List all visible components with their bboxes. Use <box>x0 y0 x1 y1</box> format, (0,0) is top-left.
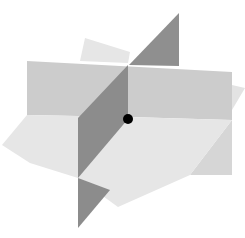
intersection-point <box>123 114 133 124</box>
three-planes-diagram <box>0 0 245 238</box>
back-vertical-plane <box>27 61 232 120</box>
back-vertical-plane-lower-right-sliver <box>232 85 245 110</box>
diagonal-vertical-plane-upper <box>129 13 179 66</box>
horizontal-plane-back <box>80 38 130 63</box>
